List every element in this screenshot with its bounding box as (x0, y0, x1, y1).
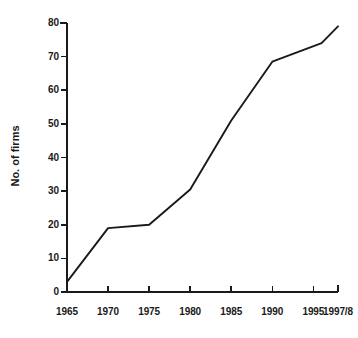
x-axis-tick-marks (67, 286, 313, 292)
y-axis-tick-marks (61, 23, 67, 292)
axes (60, 23, 338, 292)
data-series-line (67, 26, 338, 282)
